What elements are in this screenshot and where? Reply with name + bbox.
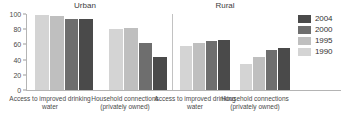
bar-urban-household-2000 xyxy=(139,43,153,90)
legend-swatch-2004 xyxy=(298,15,311,23)
panel-divider xyxy=(172,14,173,90)
bar-urban-household-2004 xyxy=(153,57,167,90)
bar-group-rural-access xyxy=(180,14,230,90)
panel-title-rural: Rural xyxy=(185,1,265,10)
bar-urban-access-1995 xyxy=(50,16,64,90)
bar-rural-household-1995 xyxy=(253,57,265,90)
bar-urban-household-1995 xyxy=(124,28,138,90)
legend-label-2000: 2000 xyxy=(315,25,332,34)
legend-swatch-1990 xyxy=(298,48,311,56)
bar-urban-access-2000 xyxy=(65,19,79,90)
x-label-rural-household: Household connections (privately owned) xyxy=(212,95,298,111)
y-tick-label-0: 0 xyxy=(17,87,21,94)
y-axis: 100806040200 xyxy=(0,14,26,90)
legend-swatch-2000 xyxy=(298,26,311,34)
legend-swatch-1995 xyxy=(298,37,311,45)
bar-rural-household-1990 xyxy=(240,64,252,90)
y-tick-label-20: 20 xyxy=(13,71,21,78)
bar-rural-household-2004 xyxy=(278,48,290,90)
x-axis-line xyxy=(26,90,341,91)
legend-label-1990: 1990 xyxy=(315,47,332,56)
panel-title-urban: Urban xyxy=(45,1,125,10)
y-tick-label-100: 100 xyxy=(10,11,21,18)
y-tick-label-40: 40 xyxy=(13,56,21,63)
bar-group-rural-household xyxy=(240,14,290,90)
bar-group-urban-access xyxy=(35,14,93,90)
bar-urban-access-1990 xyxy=(35,15,49,90)
legend-item-1995[interactable]: 1995 xyxy=(298,36,332,45)
plot-area-urban xyxy=(27,14,171,90)
bar-rural-access-2000 xyxy=(206,41,218,90)
legend-label-2004: 2004 xyxy=(315,14,332,23)
bar-urban-household-1990 xyxy=(109,29,123,90)
y-tick-label-60: 60 xyxy=(13,41,21,48)
bar-rural-access-1990 xyxy=(180,46,192,90)
bar-rural-access-2004 xyxy=(218,40,230,90)
bar-group-urban-household xyxy=(109,14,167,90)
chart-figure: Urban Rural 100806040200 Access to impro… xyxy=(0,0,348,134)
legend-item-1990[interactable]: 1990 xyxy=(298,47,332,56)
legend-label-1995: 1995 xyxy=(315,36,332,45)
plot-area-rural xyxy=(174,14,294,90)
legend-item-2000[interactable]: 2000 xyxy=(298,25,332,34)
y-tick-label-80: 80 xyxy=(13,26,21,33)
bar-rural-access-1995 xyxy=(193,43,205,90)
legend-item-2004[interactable]: 2004 xyxy=(298,14,332,23)
bar-urban-access-2004 xyxy=(79,19,93,90)
chart-legend: 2004200019951990 xyxy=(298,14,332,56)
x-label-urban-access: Access to improved drinking water xyxy=(7,95,93,111)
bar-rural-household-2000 xyxy=(266,50,278,90)
